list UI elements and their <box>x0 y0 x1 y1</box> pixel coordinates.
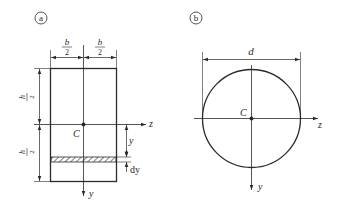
figure-b-tag: b <box>190 12 202 24</box>
label-h-half-bottom: h 2 <box>18 148 36 156</box>
z-axis-label: z <box>317 119 322 130</box>
centroid-point <box>250 117 254 121</box>
label-h-half-top: h 2 <box>18 93 36 101</box>
figure-b-tag-label: b <box>194 13 199 23</box>
y-axis-label: y <box>257 181 263 192</box>
centroid-point <box>82 123 86 127</box>
fraction-denominator: 2 <box>28 150 36 154</box>
cross-section-diagram: a y z C b 2 b 2 <box>0 0 337 206</box>
fraction-numerator: b <box>98 37 103 47</box>
figure-a-rectangle: a y z C b 2 b 2 <box>18 12 153 199</box>
z-axis-label: z <box>148 118 153 129</box>
dimension-d-label: d <box>248 45 254 57</box>
figure-a-tag: a <box>35 12 47 24</box>
fraction-denominator: 2 <box>28 95 36 99</box>
fraction-numerator: h <box>18 150 27 154</box>
label-b-half-right: b 2 <box>95 37 105 57</box>
centroid-label: C <box>240 107 247 118</box>
label-b-half-left: b 2 <box>62 37 72 57</box>
dimension-y-label: y <box>128 135 134 146</box>
fraction-numerator: h <box>18 95 27 99</box>
figure-b-circle: b d y z C <box>190 12 322 192</box>
fraction-numerator: b <box>65 37 70 47</box>
centroid-label: C <box>73 128 80 139</box>
fraction-denominator: 2 <box>65 48 69 57</box>
figure-a-tag-label: a <box>39 13 43 23</box>
y-axis-label: y <box>88 188 94 199</box>
fraction-denominator: 2 <box>98 48 102 57</box>
dimension-dy-label: dy <box>130 164 140 175</box>
